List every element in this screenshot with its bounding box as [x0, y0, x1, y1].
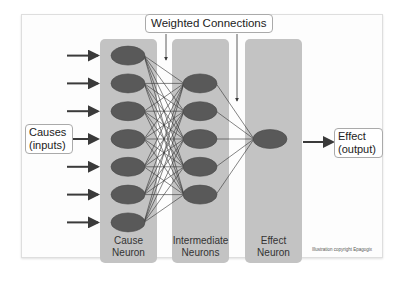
neuron-node — [111, 46, 145, 65]
copyright-note: Illustration copyright Epagogix — [312, 247, 372, 252]
neuron-node — [111, 157, 145, 176]
neuron-node — [183, 102, 217, 121]
neuron-node — [111, 185, 145, 204]
neuron-node — [111, 102, 145, 121]
neuron-node — [183, 157, 217, 176]
effect-text: Effect — [338, 130, 379, 143]
neuron-node — [253, 130, 287, 149]
neuron-node — [183, 74, 217, 93]
weighted-connections-callout: Weighted Connections — [145, 14, 273, 33]
neuron-node — [183, 185, 217, 204]
neuron-node — [111, 74, 145, 93]
inputs-text: (inputs) — [29, 139, 69, 152]
neuron-node — [111, 130, 145, 149]
neuron-node — [111, 213, 145, 232]
output-text: (output) — [338, 143, 379, 156]
neuron-node — [183, 130, 217, 149]
causes-inputs-callout: Causes (inputs) — [25, 124, 73, 154]
weighted-connections-text: Weighted Connections — [151, 17, 267, 29]
causes-text: Causes — [29, 126, 69, 139]
neurons — [111, 46, 287, 232]
effect-output-callout: Effect (output) — [334, 128, 383, 158]
